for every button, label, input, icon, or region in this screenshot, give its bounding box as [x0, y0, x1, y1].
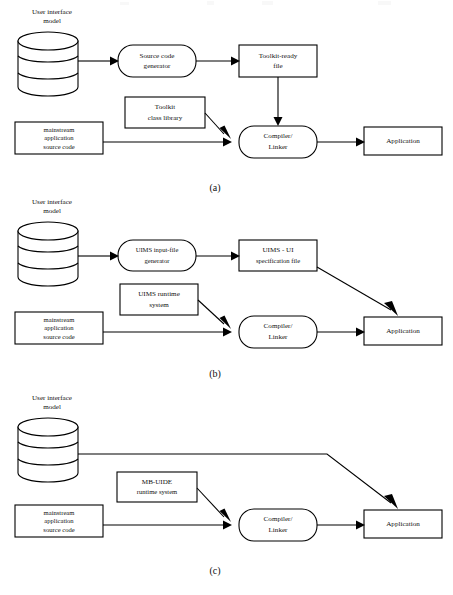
ui-model-label-line1: User interface: [32, 8, 72, 16]
ui-model-cylinder-b: [18, 222, 78, 286]
edge-source-to-compiler-b: [103, 328, 232, 337]
mainstream-label-line3-c: source code: [43, 526, 74, 533]
edge-specfile-to-application-b: [317, 267, 398, 316]
compiler-linker-label-line1-b: Compiler/: [264, 322, 293, 330]
application-label-c: Application: [386, 520, 420, 528]
uims-ui-specification-file-node: UIMS - UI specification file: [239, 240, 317, 271]
panel-caption-a: (a): [209, 182, 220, 194]
uims-runtime-label-line2: system: [149, 301, 169, 309]
edge-compiler-to-application-a: [317, 138, 365, 147]
toolkit-ready-file-label-line2: file: [273, 62, 282, 70]
edge-generator-to-toolkitfile-a: [196, 57, 240, 66]
panel-c: User interface model MB-UIDE runtime sys…: [15, 394, 442, 577]
ui-model-label-line2-b: model: [43, 207, 61, 215]
mainstream-source-code-node-b: mainstream application source code: [15, 312, 103, 344]
mainstream-label-line1: mainstream: [44, 126, 76, 133]
edge-source-to-compiler-c: [103, 521, 232, 530]
compiler-linker-label-line2-c: Linker: [269, 526, 289, 534]
mainstream-label-line2-b: application: [44, 324, 74, 331]
mainstream-label-line3-b: source code: [43, 333, 74, 340]
mainstream-label-line3: source code: [43, 143, 74, 150]
compiler-linker-label-line1-c: Compiler/: [264, 515, 293, 523]
edge-runtime-to-compiler-c: [197, 488, 231, 522]
mainstream-label-line2-c: application: [44, 517, 74, 524]
edge-runtime-to-compiler-b: [198, 300, 231, 329]
mainstream-source-code-node-a: mainstream application source code: [15, 122, 103, 154]
ui-model-label-line1-b: User interface: [32, 198, 72, 206]
compiler-linker-label-line2: Linker: [269, 143, 289, 151]
application-node-c: Application: [364, 510, 442, 538]
edge-compiler-to-application-b: [317, 328, 365, 337]
uims-spec-label-line2: specification file: [256, 257, 300, 264]
mainstream-label-line1-b: mainstream: [44, 316, 76, 323]
source-code-generator-label-line2: generator: [144, 62, 171, 70]
edge-model-to-generator-b: [78, 252, 119, 261]
toolkit-ready-file-label-line1: Toolkit-ready: [259, 52, 298, 60]
compiler-linker-node-b: Compiler/ Linker: [239, 316, 317, 348]
mbuide-label-line1: MB-UIDE: [142, 478, 172, 486]
toolkit-class-library-node: Toolkit class library: [125, 97, 205, 128]
application-node-a: Application: [364, 127, 442, 155]
scan-noise-mark: [207, 1, 214, 5]
compiler-linker-node-c: Compiler/ Linker: [239, 509, 317, 541]
scan-noise-mark: [378, 1, 391, 5]
ui-model-label-line2-c: model: [43, 403, 61, 411]
uims-generator-label-line1: UIMS input-file: [136, 246, 179, 253]
edge-toolkitfile-to-compiler-a: [274, 77, 283, 126]
diagram-svg: User interface model Source code generat…: [0, 0, 453, 595]
mainstream-label-line2: application: [44, 134, 74, 141]
compiler-linker-node-a: Compiler/ Linker: [239, 126, 317, 158]
ui-model-cylinder-c: [18, 418, 78, 482]
edge-generator-to-specfile-b: [196, 252, 240, 261]
ui-model-label-line2: model: [43, 17, 61, 25]
mbuide-label-line2: runtime system: [137, 488, 178, 495]
panel-a: User interface model Source code generat…: [15, 8, 442, 194]
ui-model-label-line1-c: User interface: [32, 394, 72, 402]
uims-runtime-label-line1: UIMS runtime: [138, 290, 180, 298]
edge-library-to-compiler-a: [205, 113, 231, 139]
panel-caption-c: (c): [209, 565, 220, 577]
toolkit-class-library-label-line1: Toolkit: [155, 103, 175, 111]
mainstream-source-code-node-c: mainstream application source code: [15, 505, 103, 537]
edge-source-to-compiler-a: [103, 138, 232, 147]
figure-canvas: User interface model Source code generat…: [0, 0, 453, 595]
compiler-linker-label-line2-b: Linker: [269, 333, 289, 341]
panel-b: User interface model UIMS input-file gen…: [15, 198, 442, 380]
scan-noise-mark: [262, 1, 273, 5]
toolkit-ready-file-node: Toolkit-ready file: [239, 45, 317, 77]
application-label-b: Application: [386, 327, 420, 335]
panel-caption-b: (b): [209, 368, 221, 380]
toolkit-class-library-label-line2: class library: [148, 114, 183, 122]
scan-noise-mark: [120, 2, 129, 5]
application-node-b: Application: [364, 317, 442, 345]
uims-generator-label-line2: generator: [145, 257, 171, 264]
source-code-generator-label-line1: Source code: [140, 52, 175, 60]
source-code-generator-node: Source code generator: [118, 45, 196, 77]
compiler-linker-label-line1: Compiler/: [264, 132, 293, 140]
mainstream-label-line1-c: mainstream: [44, 509, 76, 516]
mbuide-runtime-system-node: MB-UIDE runtime system: [117, 472, 197, 502]
uims-spec-label-line1: UIMS - UI: [262, 246, 294, 254]
ui-model-cylinder-a: [18, 32, 78, 96]
edge-model-to-generator-a: [78, 57, 119, 66]
application-label: Application: [386, 137, 420, 145]
uims-input-file-generator-node: UIMS input-file generator: [118, 240, 196, 271]
uims-runtime-system-node: UIMS runtime system: [120, 284, 198, 315]
edge-compiler-to-application-c: [317, 521, 365, 530]
